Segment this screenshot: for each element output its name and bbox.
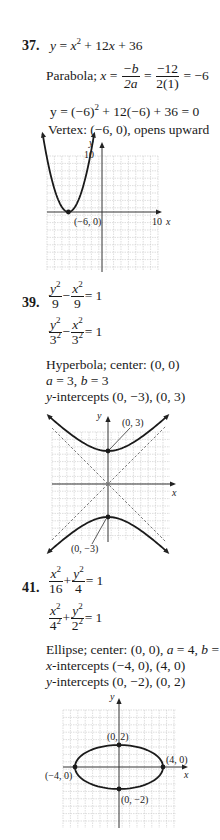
bottom-vertex-label: (0, −2)	[121, 794, 148, 806]
top-vertex-label: (0, 2)	[107, 731, 129, 743]
vertex-point	[73, 765, 78, 770]
ellipse-graph: y(0, 2)(0, −2)(4, 0)(−4, 0)x	[0, 0, 220, 840]
vertex-point	[117, 787, 122, 792]
x-axis-label: x	[183, 769, 189, 780]
vertex-point	[117, 743, 122, 748]
right-vertex-label: (4, 0)	[166, 754, 188, 766]
vertex-point	[161, 765, 166, 770]
y-axis-label: y	[109, 691, 115, 702]
y-axis-arrow-icon	[116, 698, 121, 704]
left-vertex-label: (−4, 0)	[45, 770, 72, 782]
